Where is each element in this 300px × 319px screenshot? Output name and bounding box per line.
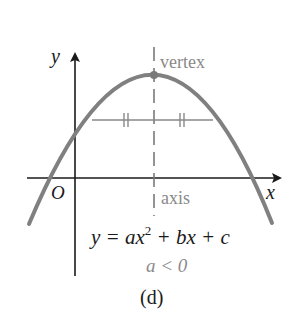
axis-label: axis <box>161 188 190 208</box>
vertex-label: vertex <box>160 52 205 72</box>
y-axis-label: y <box>49 45 60 68</box>
equation-prefix: y = ax <box>89 225 145 249</box>
equation-suffix: + bx + c <box>151 225 230 249</box>
parabola-curve <box>29 75 272 224</box>
figure-caption: (d) <box>140 286 163 309</box>
origin-label: O <box>51 182 65 203</box>
vertex-point <box>150 71 158 79</box>
condition-label: a < 0 <box>146 255 188 276</box>
x-axis-label: x <box>265 181 275 203</box>
equation: y = ax2 + bx + c <box>89 223 230 249</box>
parabola-diagram: y x O vertex axis y = ax2 + bx + c a < 0… <box>0 0 300 319</box>
